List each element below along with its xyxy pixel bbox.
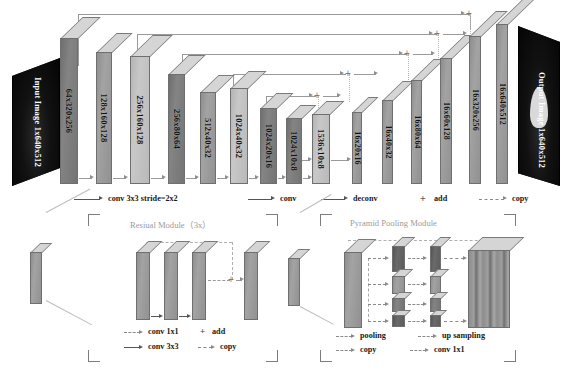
- legend-item-add: add: [434, 194, 447, 203]
- pyramid-legend-copy: copy: [360, 345, 376, 354]
- decoder-block-4: 16x60x128: [440, 58, 452, 184]
- legend-item-conv: conv: [280, 194, 296, 203]
- residual-legend-conv1x1: conv 1x1: [148, 327, 179, 336]
- decoder-block-6-label: 16x640x512: [498, 83, 507, 125]
- pyramid-input-slab: [344, 252, 362, 328]
- pyramid-concat-block: [468, 250, 510, 328]
- encoder-block-8: 1024x10x8: [286, 118, 302, 184]
- slab-top: [312, 101, 344, 115]
- residual-output: [244, 252, 258, 320]
- encoder-block-3-label: 256x160x128: [135, 96, 145, 145]
- residual-conv-2: [164, 252, 178, 320]
- encoder-block-7: 1024x20x16: [260, 108, 277, 184]
- encoder-block-6-label: 1024x40x32: [234, 114, 244, 159]
- pyramid-pooling-panel: Pyramid Pooling Module: [320, 214, 516, 362]
- pyramid-module-title: Pyramid Pooling Module: [350, 218, 437, 228]
- decoder-block-5: 16x320x256: [469, 36, 481, 184]
- decoder-block-4-label: 16x60x128: [442, 102, 451, 140]
- encoder-block-9-label: 1536x10x8: [316, 129, 326, 169]
- residual-source-slab: [30, 252, 42, 304]
- decoder-block-1: 16x20x16: [352, 112, 362, 184]
- decoder-block-3: 16x80x64: [411, 80, 422, 184]
- encoder-block-2: 128x160x128: [96, 52, 112, 184]
- slab-top: [352, 97, 379, 113]
- residual-module-panel: Resiual Module（3x） +: [88, 214, 278, 362]
- legend-item-copy: copy: [512, 194, 528, 203]
- slab-top: [382, 81, 414, 101]
- decoder-block-5-label: 16x320x256: [471, 89, 480, 131]
- encoder-block-9: 1536x10x8: [312, 114, 330, 184]
- legend-plus-icon: +: [420, 193, 426, 204]
- output-image-label: Output Image 1x640x512: [537, 72, 547, 168]
- encoder-block-5: 512x40x32: [200, 92, 216, 184]
- residual-legend-conv3x3: conv 3x3: [148, 342, 179, 351]
- pyramid-legend-upsampling: up sampling: [442, 331, 485, 340]
- main-legend: conv 3x3 stride=2x2 conv deconv + add co…: [0, 192, 563, 210]
- residual-legend-plus-icon: +: [200, 326, 205, 336]
- encoder-block-2-label: 128x160x128: [99, 94, 109, 143]
- residual-legend-add: add: [212, 327, 225, 336]
- pyramid-conv-b4: [430, 315, 441, 327]
- input-image-label: Input Image 1x640x512: [33, 77, 43, 167]
- pyramid-pool-a4: [392, 315, 405, 327]
- add-symbol-1: +: [466, 10, 472, 18]
- encoder-block-5-label: 512x40x32: [203, 118, 213, 158]
- encoder-block-1: 64x320x256: [60, 38, 78, 184]
- encoder-block-6: 1024x40x32: [230, 88, 248, 184]
- residual-add-symbol: +: [228, 276, 234, 284]
- legend-item-deconv: deconv: [353, 194, 378, 203]
- legend-item-conv-stride: conv 3x3 stride=2x2: [108, 194, 178, 203]
- slab-top: [168, 55, 206, 75]
- decoder-block-3-label: 16x80x64: [412, 115, 421, 149]
- decoder-block-2: 16x40x32: [382, 100, 393, 184]
- residual-guide-bottom: [46, 300, 92, 325]
- slab-top: [96, 33, 133, 53]
- encoder-block-3: 256x160x128: [130, 56, 150, 184]
- encoder-block-8-label: 1024x10x8: [289, 131, 299, 171]
- encoder-block-4-label: 256x80x64: [172, 109, 182, 149]
- pyramid-legend-conv1x1: conv 1x1: [434, 345, 465, 354]
- pyramid-legend-pooling: pooling: [360, 331, 386, 340]
- encoder-block-4: 256x80x64: [168, 74, 185, 184]
- residual-conv-3: [192, 252, 206, 320]
- residual-conv-1: [136, 252, 150, 320]
- decoder-block-6: 16x640x512: [496, 24, 508, 184]
- decoder-block-1-label: 16x20x16: [353, 131, 362, 165]
- residual-legend-copy: copy: [220, 342, 236, 351]
- decoder-block-2-label: 16x40x32: [383, 125, 392, 159]
- encoder-block-1-label: 64x320x256: [64, 89, 74, 134]
- encoder-block-7-label: 1024x20x16: [264, 124, 274, 169]
- figure-root: + + + +: [0, 0, 563, 372]
- pyramid-source-slab: [288, 258, 300, 306]
- residual-module-title: Resiual Module（3x）: [130, 218, 211, 230]
- slab-top: [60, 17, 101, 39]
